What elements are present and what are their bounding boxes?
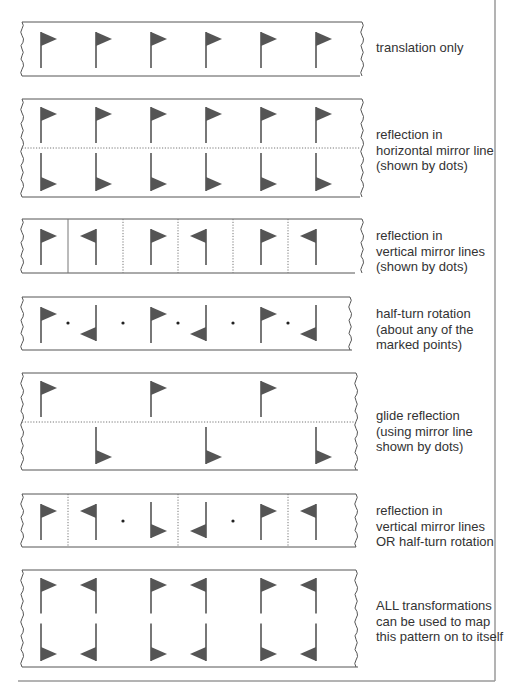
flag-left-icon [300, 578, 316, 592]
flag-right-icon [41, 381, 57, 395]
flag-right-icon [41, 647, 57, 661]
caption-line: this pattern on to itself [376, 629, 503, 645]
caption-reflection-or-half-turn: reflection in vertical mirror lines OR h… [376, 503, 494, 550]
flag-right-icon [96, 107, 112, 121]
strip-right-torn-edge [355, 570, 358, 667]
strip-left-torn-edge [21, 494, 24, 547]
flag-left-icon [190, 229, 206, 243]
flag-left-icon [80, 504, 96, 518]
flag-right-icon [41, 504, 57, 518]
caption-line: vertical mirror lines [376, 519, 494, 535]
caption-line: ALL transformations [376, 598, 503, 614]
flag-right-icon [151, 381, 167, 395]
flag-right-icon [261, 578, 277, 592]
flag-right-icon [261, 504, 277, 518]
caption-all-transformations: ALL transformations can be used to map t… [376, 598, 503, 645]
caption-translation: translation only [376, 40, 463, 56]
flag-right-icon [206, 450, 222, 464]
flag-right-icon [96, 32, 112, 46]
strip-left-torn-edge [21, 297, 24, 350]
flag-right-icon [41, 107, 57, 121]
strip-right-torn-edge [355, 373, 358, 470]
rotation-center-point [231, 519, 234, 522]
rotation-center-point [121, 519, 124, 522]
flag-right-icon [261, 381, 277, 395]
caption-horizontal-reflection: reflection in horizontal mirror line (sh… [376, 127, 494, 174]
strip-left-torn-edge [21, 219, 24, 273]
flag-right-icon [96, 177, 112, 191]
flag-left-icon [190, 327, 206, 341]
rotation-center-point [286, 321, 289, 324]
flag-right-icon [96, 450, 112, 464]
flag-left-icon [300, 504, 316, 518]
flag-left-icon [80, 229, 96, 243]
flag-left-icon [80, 327, 96, 341]
caption-line: can be used to map [376, 614, 503, 630]
caption-line: half-turn rotation [376, 306, 474, 322]
strip-left-torn-edge [21, 570, 24, 667]
caption-line: (shown by dots) [376, 259, 485, 275]
flag-right-icon [41, 578, 57, 592]
caption-line: horizontal mirror line [376, 143, 494, 159]
flag-right-icon [316, 32, 332, 46]
caption-line: glide reflection [376, 408, 473, 424]
caption-line: (shown by dots) [376, 158, 494, 174]
strip-right-torn-edge [361, 219, 364, 273]
flag-left-icon [190, 578, 206, 592]
strip-right-torn-edge [349, 297, 352, 350]
flag-right-icon [316, 177, 332, 191]
flag-right-icon [316, 450, 332, 464]
caption-line: reflection in [376, 127, 494, 143]
flag-right-icon [151, 307, 167, 321]
strip-right-torn-edge [361, 99, 364, 197]
flag-left-icon [80, 647, 96, 661]
caption-line: (using mirror line [376, 424, 473, 440]
flag-right-icon [206, 107, 222, 121]
flag-right-icon [41, 307, 57, 321]
rotation-center-point [231, 321, 234, 324]
flag-right-icon [206, 32, 222, 46]
caption-line: (about any of the [376, 322, 474, 338]
flag-right-icon [41, 229, 57, 243]
rotation-center-point [121, 321, 124, 324]
flag-right-icon [151, 229, 167, 243]
flag-right-icon [151, 107, 167, 121]
caption-line: shown by dots) [376, 439, 473, 455]
caption-line: marked points) [376, 337, 474, 353]
rotation-center-point [176, 321, 179, 324]
flag-left-icon [190, 524, 206, 538]
flag-right-icon [41, 32, 57, 46]
caption-line: vertical mirror lines [376, 244, 485, 260]
flag-right-icon [206, 177, 222, 191]
flag-right-icon [151, 578, 167, 592]
caption-line: reflection in [376, 228, 485, 244]
flag-right-icon [261, 177, 277, 191]
flag-right-icon [261, 32, 277, 46]
flag-right-icon [261, 307, 277, 321]
flag-right-icon [316, 107, 332, 121]
caption-line: OR half-turn rotation [376, 534, 494, 550]
caption-half-turn: half-turn rotation (about any of the mar… [376, 306, 474, 353]
flag-left-icon [190, 647, 206, 661]
strip-right-torn-edge [361, 22, 364, 76]
flag-right-icon [261, 229, 277, 243]
strip-left-torn-edge [21, 22, 24, 76]
caption-line: translation only [376, 40, 463, 56]
rotation-center-point [66, 321, 69, 324]
flag-right-icon [151, 524, 167, 538]
caption-line: reflection in [376, 503, 494, 519]
flag-right-icon [41, 177, 57, 191]
flag-right-icon [151, 177, 167, 191]
caption-vertical-reflection: reflection in vertical mirror lines (sho… [376, 228, 485, 275]
frieze-patterns-figure: translation only reflection in horizonta… [0, 0, 506, 688]
flag-right-icon [151, 32, 167, 46]
flag-left-icon [300, 327, 316, 341]
flag-right-icon [261, 647, 277, 661]
strip-right-torn-edge [355, 494, 358, 547]
flag-right-icon [261, 107, 277, 121]
caption-glide-reflection: glide reflection (using mirror line show… [376, 408, 473, 455]
flag-left-icon [80, 578, 96, 592]
flag-left-icon [300, 647, 316, 661]
flag-left-icon [300, 229, 316, 243]
flag-right-icon [151, 647, 167, 661]
